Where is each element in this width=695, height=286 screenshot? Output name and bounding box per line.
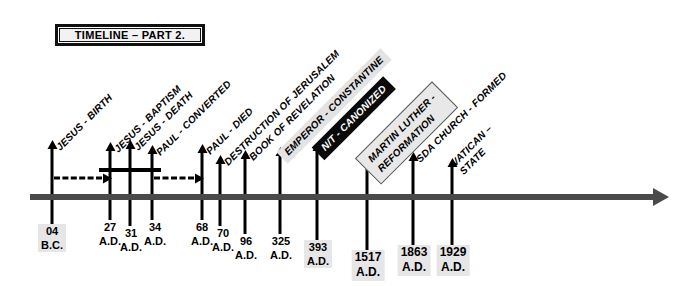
date-label-1517ad: 1517 A.D. bbox=[352, 250, 385, 281]
date-era: A.D. bbox=[270, 248, 292, 262]
date-label-27ad: 27 A.D. bbox=[99, 220, 121, 248]
date-era: B.C. bbox=[38, 238, 66, 252]
axis-tick-27ad bbox=[109, 200, 112, 220]
timeline-title-plate: TIMELINE – PART 2. bbox=[55, 24, 205, 46]
date-label-04bc: 04 B.C. bbox=[38, 224, 66, 252]
event-stem-jesus-baptism bbox=[109, 150, 112, 194]
axis-tick-68ad bbox=[201, 200, 204, 220]
date-year: 1929 bbox=[437, 245, 470, 260]
axis-tick-1517ad bbox=[366, 200, 369, 250]
event-stem-jesus-birth bbox=[51, 148, 54, 194]
date-year: 68 bbox=[191, 220, 213, 234]
axis-tick-34ad bbox=[151, 200, 154, 220]
date-era: A.D. bbox=[304, 254, 332, 268]
date-era: A.D. bbox=[120, 240, 142, 254]
axis-tick-393ad bbox=[316, 200, 319, 240]
date-era: A.D. bbox=[437, 260, 470, 275]
page-title: TIMELINE – PART 2. bbox=[75, 29, 185, 41]
event-stem-emperor-constantine bbox=[279, 155, 282, 194]
date-year: 325 bbox=[270, 234, 292, 248]
date-label-68ad: 68 A.D. bbox=[191, 220, 213, 248]
axis-tick-31ad bbox=[129, 200, 132, 226]
axis-tick-1929ad bbox=[451, 200, 454, 245]
connector-converted-to-paul-died bbox=[154, 177, 194, 180]
date-era: A.D. bbox=[99, 234, 121, 248]
date-year: 34 bbox=[144, 220, 166, 234]
date-label-70ad: 70 A.D. bbox=[212, 226, 234, 254]
axis-tick-1863ad bbox=[412, 200, 415, 245]
date-label-34ad: 34 A.D. bbox=[144, 220, 166, 248]
date-year: 393 bbox=[304, 240, 332, 254]
date-label-96ad: 96 A.D. bbox=[235, 234, 257, 262]
date-label-1929ad: 1929 A.D. bbox=[437, 245, 470, 276]
timeline-canvas: TIMELINE – PART 2. JESUS - BIRTH JESUS -… bbox=[0, 0, 695, 286]
date-label-325ad: 325 A.D. bbox=[270, 234, 292, 262]
date-year: 31 bbox=[120, 226, 142, 240]
date-year: 70 bbox=[212, 226, 234, 240]
axis-tick-04bc bbox=[51, 200, 54, 224]
connector-birth-to-baptism bbox=[54, 177, 102, 180]
event-stem-paul-converted bbox=[151, 153, 154, 194]
date-year: 1863 bbox=[398, 245, 431, 260]
date-era: A.D. bbox=[212, 240, 234, 254]
event-stem-nt-canonized bbox=[316, 150, 319, 194]
date-era: A.D. bbox=[191, 234, 213, 248]
date-label-31ad: 31 A.D. bbox=[120, 226, 142, 254]
axis-tick-70ad bbox=[219, 200, 222, 226]
date-year: 04 bbox=[38, 224, 66, 238]
date-era: A.D. bbox=[235, 248, 257, 262]
event-stem-destruction-jerusalem bbox=[219, 163, 222, 194]
cross-icon bbox=[99, 168, 161, 172]
axis-tick-325ad bbox=[279, 200, 282, 234]
date-era: A.D. bbox=[352, 265, 385, 280]
event-stem-book-of-revelation bbox=[244, 158, 247, 194]
axis-tick-96ad bbox=[244, 200, 247, 234]
date-era: A.D. bbox=[398, 260, 431, 275]
axis-right-arrow-icon bbox=[653, 188, 669, 206]
date-year: 27 bbox=[99, 220, 121, 234]
date-year: 1517 bbox=[352, 250, 385, 265]
date-year: 96 bbox=[235, 234, 257, 248]
date-label-1863ad: 1863 A.D. bbox=[398, 245, 431, 276]
date-label-393ad: 393 A.D. bbox=[304, 240, 332, 268]
event-stem-vatican-state bbox=[451, 166, 454, 194]
event-stem-sda-church bbox=[412, 160, 415, 194]
timeline-axis bbox=[30, 194, 655, 200]
date-era: A.D. bbox=[144, 234, 166, 248]
